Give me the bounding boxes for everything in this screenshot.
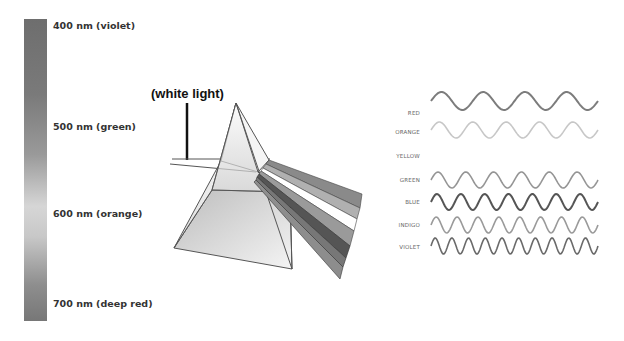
prism-diagram <box>0 0 624 341</box>
wave-label-indigo: INDIGO <box>360 222 420 228</box>
wave-orange <box>431 122 598 138</box>
wave-green <box>431 172 598 188</box>
wave-blue <box>431 194 598 210</box>
wave-label-orange: ORANGE <box>360 129 420 135</box>
wave-violet <box>431 238 598 254</box>
wave-label-violet: VIOLET <box>360 244 420 250</box>
wave-indigo <box>431 217 598 233</box>
wave-label-red: RED <box>360 110 420 116</box>
wave-label-blue: BLUE <box>360 199 420 205</box>
wave-red <box>431 92 598 110</box>
wave-label-yellow: YELLOW <box>360 153 420 159</box>
wave-label-green: GREEN <box>360 177 420 183</box>
